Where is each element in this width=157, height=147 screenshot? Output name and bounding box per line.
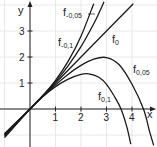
label-f-0-1: f0,1	[98, 90, 111, 103]
y-axis-label: y	[18, 4, 24, 16]
y-tick-label: 1	[19, 78, 25, 89]
y-tick-label: 3	[19, 26, 25, 37]
x-axis-label: x	[147, 108, 153, 120]
label-f-minus-0-05: f-0,05	[63, 6, 82, 19]
label-f-0-05: f0,05	[133, 63, 150, 76]
x-tick-label: 4	[129, 112, 135, 123]
x-tick-label: 1	[53, 112, 59, 123]
y-axis-arrow-icon	[28, 1, 33, 7]
label-f-minus-0-1: f-0,1	[58, 36, 73, 49]
x-tick-label: 2	[78, 112, 84, 123]
function-family-chart: y x 1234123 f-0,05 f-0,1 f0 f0,05 f0,1	[0, 0, 157, 147]
curves	[5, 2, 154, 146]
x-tick-label: 3	[104, 112, 110, 123]
curve-f0,05	[5, 57, 154, 145]
y-tick-label: 2	[19, 52, 25, 63]
label-f-0: f0	[112, 33, 119, 46]
